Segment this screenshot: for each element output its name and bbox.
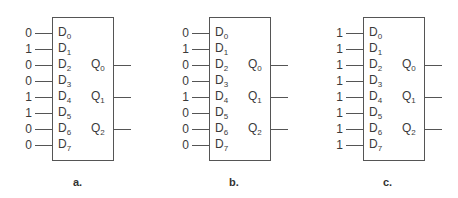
input-value: 1	[333, 27, 343, 39]
input-wire	[192, 129, 209, 130]
input-value: 0	[22, 27, 32, 39]
input-wire	[346, 81, 363, 82]
input-wire	[35, 81, 52, 82]
output-wire	[271, 97, 288, 98]
input-wire	[192, 145, 209, 146]
output-label: Q2	[248, 122, 262, 139]
output-label: Q2	[402, 122, 416, 139]
input-value: 1	[22, 91, 32, 103]
input-wire	[35, 97, 52, 98]
input-value: 0	[22, 75, 32, 87]
input-wire	[192, 97, 209, 98]
input-wire	[346, 49, 363, 50]
output-label: Q0	[91, 58, 105, 75]
input-wire	[35, 129, 52, 130]
input-value: 0	[179, 107, 189, 119]
input-value: 1	[333, 107, 343, 119]
input-value: 0	[179, 139, 189, 151]
output-label: Q1	[91, 90, 105, 107]
output-wire	[114, 97, 131, 98]
input-value: 0	[179, 75, 189, 87]
input-wire	[346, 113, 363, 114]
input-value: 0	[179, 59, 189, 71]
input-value: 1	[179, 91, 189, 103]
input-wire	[35, 145, 52, 146]
input-value: 1	[333, 59, 343, 71]
input-wire	[192, 113, 209, 114]
output-wire	[425, 129, 442, 130]
panel-caption: b.	[229, 176, 239, 188]
output-wire	[114, 65, 131, 66]
input-value: 0	[22, 59, 32, 71]
input-value: 1	[333, 91, 343, 103]
input-value: 0	[22, 123, 32, 135]
input-wire	[35, 33, 52, 34]
panel-caption: a.	[73, 176, 82, 188]
input-value: 0	[179, 123, 189, 135]
input-value: 1	[333, 139, 343, 151]
input-label: D7	[58, 138, 71, 155]
output-label: Q1	[248, 90, 262, 107]
output-wire	[271, 129, 288, 130]
input-value: 1	[333, 75, 343, 87]
input-wire	[192, 81, 209, 82]
input-wire	[35, 65, 52, 66]
input-value: 0	[179, 27, 189, 39]
input-value: 0	[22, 139, 32, 151]
panel-caption: c.	[383, 176, 392, 188]
input-wire	[35, 113, 52, 114]
input-wire	[192, 65, 209, 66]
input-wire	[346, 145, 363, 146]
output-label: Q0	[402, 58, 416, 75]
input-label: D7	[215, 138, 228, 155]
output-label: Q1	[402, 90, 416, 107]
output-wire	[425, 97, 442, 98]
input-wire	[346, 33, 363, 34]
output-label: Q0	[248, 58, 262, 75]
output-wire	[425, 65, 442, 66]
input-wire	[192, 49, 209, 50]
output-wire	[271, 65, 288, 66]
input-value: 1	[333, 43, 343, 55]
input-wire	[346, 65, 363, 66]
input-value: 1	[22, 107, 32, 119]
input-value: 1	[22, 43, 32, 55]
input-value: 1	[333, 123, 343, 135]
output-label: Q2	[91, 122, 105, 139]
input-label: D7	[369, 138, 382, 155]
input-wire	[35, 49, 52, 50]
input-wire	[346, 129, 363, 130]
input-wire	[346, 97, 363, 98]
output-wire	[114, 129, 131, 130]
input-wire	[192, 33, 209, 34]
input-value: 1	[179, 43, 189, 55]
